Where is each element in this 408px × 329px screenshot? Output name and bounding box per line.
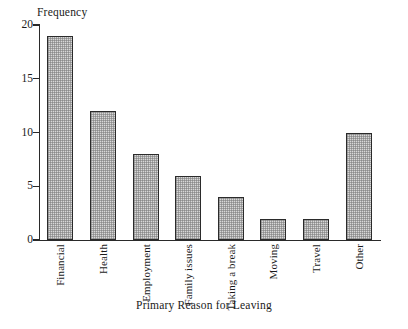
x-axis-tick-label: Moving bbox=[267, 244, 279, 279]
bar bbox=[303, 219, 329, 241]
y-axis-tick-label: 15 bbox=[7, 73, 33, 85]
y-axis-tick-label: 5 bbox=[7, 180, 33, 192]
x-axis-tick-label-wrap: Employment bbox=[146, 244, 158, 302]
x-axis-tick-label: Health bbox=[97, 244, 109, 274]
bar bbox=[346, 133, 372, 241]
plot-area bbox=[39, 25, 380, 240]
y-axis-tick-label: 20 bbox=[7, 19, 33, 31]
x-axis-tick-label-wrap: Moving bbox=[273, 244, 285, 279]
x-axis-tick-label-wrap: Health bbox=[103, 244, 115, 274]
x-axis-tick-label: Financial bbox=[54, 244, 66, 286]
x-axis-tick-label-wrap: Family issues bbox=[188, 244, 200, 306]
bar bbox=[175, 176, 201, 241]
x-axis-tick-label: Family issues bbox=[182, 244, 194, 306]
x-axis-tick-label-wrap: Other bbox=[359, 244, 371, 270]
bar bbox=[218, 197, 244, 240]
x-axis-tick-label: Other bbox=[353, 244, 365, 270]
x-axis-tick-label-wrap: Travel bbox=[316, 244, 328, 273]
x-axis-title: Primary Reason for Leaving bbox=[0, 299, 408, 311]
bar bbox=[90, 111, 116, 240]
x-axis-tick-label-wrap: Financial bbox=[60, 244, 72, 286]
bar-chart: Frequency 05101520 FinancialHealthEmploy… bbox=[0, 0, 408, 329]
bar bbox=[260, 219, 286, 241]
y-axis-tick-label: 0 bbox=[7, 234, 33, 246]
y-axis-title: Frequency bbox=[37, 6, 87, 18]
x-axis-tick-label: Travel bbox=[310, 244, 322, 273]
y-axis-tick-label: 10 bbox=[7, 127, 33, 139]
bar bbox=[133, 154, 159, 240]
bar bbox=[47, 36, 73, 240]
x-axis-tick-label: Employment bbox=[140, 244, 152, 302]
